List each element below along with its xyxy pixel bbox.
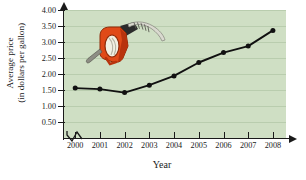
x-tick-label-2003: 2003 [141,142,157,150]
x-tick-label-2006: 2006 [215,142,231,150]
y-tick-label-3-50: 3.50 [42,23,56,31]
x-tick-2000 [75,132,76,139]
gridline-4-00 [64,10,286,11]
x-tick-2007 [248,132,249,139]
y-tick-label-2-00: 2.00 [42,71,56,79]
x-tick-2006 [224,132,225,139]
y-tick-4-00 [58,10,65,11]
y-axis-title: Average price (in dollars per gallon) [5,3,27,123]
gridline-0-50 [64,122,286,123]
y-tick-3-50 [58,26,65,27]
y-tick-label-1-00: 1.00 [42,103,56,111]
gas-pump-nozzle-icon [76,16,168,70]
x-tick-label-2001: 2001 [92,142,108,150]
x-axis-title: Year [0,159,306,170]
gridline-1-00 [64,106,286,107]
gridline-2-00 [64,74,286,75]
gas-price-line-chart: 4.00 3.50 3.00 2.50 2.00 1.50 1.00 0.50 … [0,0,306,180]
x-axis-arrow [289,135,297,143]
x-tick-label-2005: 2005 [191,142,207,150]
y-tick-0-50 [58,122,65,123]
x-tick-label-2004: 2004 [166,142,182,150]
x-tick-label-2000: 2000 [67,142,83,150]
x-tick-2001 [100,132,101,139]
x-tick-2002 [125,132,126,139]
y-axis-arrow [60,2,68,10]
y-tick-2-50 [58,58,65,59]
x-tick-label-2007: 2007 [240,142,256,150]
x-axis-line [63,138,291,139]
x-axis-title-text: Year [153,159,171,170]
x-tick-2008 [273,132,274,139]
y-tick-1-00 [58,106,65,107]
x-tick-label-2002: 2002 [116,142,132,150]
y-tick-label-1-50: 1.50 [42,87,56,95]
x-tick-2003 [149,132,150,139]
y-tick-label-4-00: 4.00 [42,7,56,15]
y-tick-3-00 [58,42,65,43]
y-tick-label-0-50: 0.50 [42,119,56,127]
y-tick-label-3-00: 3.00 [42,39,56,47]
x-tick-2005 [199,132,200,139]
y-tick-label-2-50: 2.50 [42,55,56,63]
y-tick-1-50 [58,90,65,91]
y-tick-2-00 [58,74,65,75]
x-tick-2004 [174,132,175,139]
gridline-1-50 [64,90,286,91]
x-tick-label-2008: 2008 [265,142,281,150]
y-axis-title-line2: (in dollars per gallon) [16,3,27,123]
y-axis-title-line1: Average price [5,3,16,123]
